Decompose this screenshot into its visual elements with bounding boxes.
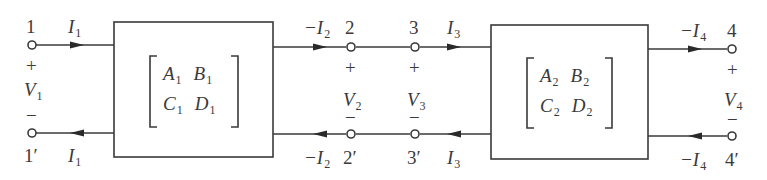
abcd-matrix-2: A2 B2 C2 D2 <box>540 62 592 122</box>
current-label-2-top: −I2 <box>304 18 330 40</box>
matrix-1-right-bracket-icon <box>231 56 238 127</box>
matrix-1-d: D1 <box>195 93 216 118</box>
terminal-2-prime-label: 2′ <box>343 148 357 167</box>
matrix-1-c: C1 <box>163 93 183 118</box>
arrow-right-icon <box>70 42 84 49</box>
terminal-1-prime-label: 1′ <box>24 146 38 165</box>
arrow-right-icon <box>447 44 461 51</box>
plus-sign-3: + <box>409 58 420 77</box>
terminal-4 <box>728 45 736 53</box>
terminal-2-label: 2 <box>345 18 355 37</box>
current-label-1-top: I1 <box>68 17 81 39</box>
plus-sign-4: + <box>727 60 738 79</box>
minus-sign-3: − <box>409 108 420 127</box>
current-label-3-top: I3 <box>447 18 460 40</box>
matrix-2-b: B2 <box>571 65 590 90</box>
current-label-4-top: −I4 <box>680 21 706 43</box>
arrow-left-icon <box>688 133 702 140</box>
current-label-4-bottom: −I4 <box>680 150 706 172</box>
matrix-1-b: B1 <box>194 63 213 88</box>
terminal-3-prime <box>411 130 419 138</box>
matrix-1-left-bracket-icon <box>150 56 157 127</box>
matrix-2-a: A2 <box>540 65 559 90</box>
matrix-1-a: A1 <box>163 63 182 88</box>
matrix-2-left-bracket-icon <box>527 58 534 128</box>
arrow-left-icon <box>447 131 461 138</box>
matrix-2-d: D2 <box>572 95 593 120</box>
terminal-3-prime-label: 3′ <box>407 148 421 167</box>
arrow-right-icon <box>313 44 327 51</box>
terminal-4-label: 4 <box>727 21 737 40</box>
plus-sign-1: + <box>26 56 37 75</box>
terminal-3-label: 3 <box>409 18 419 37</box>
plus-sign-2: + <box>345 58 356 77</box>
current-label-2-bottom: −I2 <box>304 148 330 170</box>
matrix-2-c: C2 <box>540 95 560 120</box>
terminal-1-prime <box>28 129 36 137</box>
terminal-1 <box>28 41 36 49</box>
minus-sign-1: − <box>26 106 37 125</box>
terminal-2-prime <box>347 130 355 138</box>
terminal-4-prime <box>728 132 736 140</box>
terminal-1-label: 1 <box>26 17 36 36</box>
current-label-3-bottom: I3 <box>447 148 460 170</box>
terminal-2 <box>347 43 355 51</box>
minus-sign-4: − <box>727 110 738 129</box>
arrow-right-icon <box>688 46 702 53</box>
arrow-left-icon <box>313 131 327 138</box>
terminal-4-prime-label: 4′ <box>725 150 739 169</box>
arrow-left-icon <box>70 130 84 137</box>
current-label-1-bottom: I1 <box>68 146 81 168</box>
abcd-matrix-1: A1 B1 C1 D1 <box>163 60 215 120</box>
voltage-label-1: V1 <box>24 80 43 102</box>
matrix-2-right-bracket-icon <box>605 58 612 128</box>
circuit-drawing <box>0 0 767 180</box>
minus-sign-2: − <box>345 108 356 127</box>
terminal-3 <box>411 43 419 51</box>
